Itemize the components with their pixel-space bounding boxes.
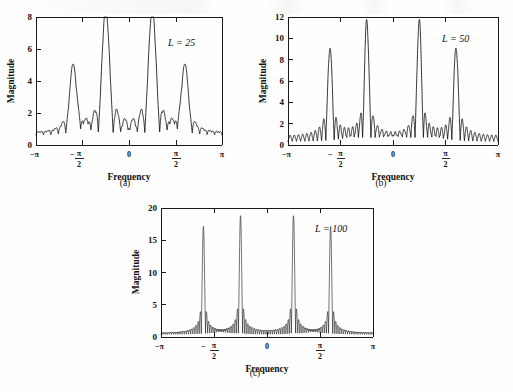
panel-c-xtick-pi: π bbox=[371, 342, 376, 351]
panel-b: 0 2 4 6 8 10 12 −π − π bbox=[252, 8, 510, 193]
svg-text:π: π bbox=[443, 149, 448, 158]
panel-a-ytick-0: 0 bbox=[28, 140, 33, 150]
panel-b-xtick-pi: π bbox=[496, 150, 501, 159]
svg-text:−: − bbox=[70, 150, 75, 159]
panel-c-caption: (c) bbox=[125, 368, 385, 378]
panel-c-xtick-neg-pi: −π bbox=[155, 342, 165, 351]
svg-text:2: 2 bbox=[174, 160, 178, 169]
svg-text:2: 2 bbox=[318, 352, 322, 361]
svg-text:π: π bbox=[338, 149, 343, 158]
svg-text:2: 2 bbox=[444, 160, 448, 169]
panel-b-ytick-6: 6 bbox=[280, 76, 285, 86]
figure-page: 0 2 4 6 8 −π − π bbox=[0, 0, 513, 392]
svg-text:L = 50: L = 50 bbox=[441, 33, 469, 44]
panel-b-annot-var: L = 50 bbox=[441, 33, 469, 44]
panel-a-xtick-pi-over-2: π 2 bbox=[172, 149, 181, 169]
svg-text:L = 25: L = 25 bbox=[167, 37, 195, 48]
panel-a-x-ticks bbox=[82, 17, 176, 145]
panel-c-xtick-neg-pi-over-2: − π 2 bbox=[201, 341, 219, 361]
panel-c-ytick-5: 5 bbox=[153, 300, 158, 310]
panel-a-y-ticks: 0 2 4 6 8 bbox=[28, 12, 42, 150]
svg-text:π: π bbox=[318, 341, 323, 350]
panel-c-xtick-zero: 0 bbox=[265, 342, 269, 351]
panel-c-y-ticks: 0 5 10 15 20 bbox=[148, 203, 166, 342]
panel-a-annotation: L = 25 bbox=[167, 37, 195, 48]
panel-b-xtick-zero: 0 bbox=[391, 150, 395, 159]
svg-text:π: π bbox=[212, 341, 217, 350]
panel-a-xtick-zero: 0 bbox=[127, 150, 131, 159]
panel-a-ytick-2: 2 bbox=[28, 108, 33, 118]
panel-c-x-ticks bbox=[214, 208, 320, 337]
panel-a-plot: 0 2 4 6 8 −π − π bbox=[0, 8, 250, 193]
panel-a-ytick-8: 8 bbox=[28, 12, 33, 22]
panel-c-ylabel: Magnitude bbox=[131, 250, 141, 294]
panel-a-xtick-pi: π bbox=[220, 150, 225, 159]
panel-b-ytick-8: 8 bbox=[280, 55, 285, 65]
panel-a-xtick-neg-pi-over-2: − π 2 bbox=[70, 149, 84, 169]
svg-text:−: − bbox=[328, 150, 333, 159]
svg-text:π: π bbox=[174, 149, 179, 158]
panel-b-annotation: L = 50 bbox=[441, 33, 469, 44]
panel-c-ytick-0: 0 bbox=[153, 332, 158, 342]
svg-text:−: − bbox=[201, 342, 206, 351]
panel-a-caption: (a) bbox=[0, 178, 250, 188]
panel-b-ytick-0: 0 bbox=[280, 140, 285, 150]
panel-c-ytick-15: 15 bbox=[148, 235, 158, 245]
panel-c: 0 5 10 15 20 −π − π 2 bbox=[125, 198, 385, 388]
panel-a-ytick-6: 6 bbox=[28, 44, 33, 54]
panel-a-ytick-4: 4 bbox=[28, 76, 33, 86]
panel-c-ytick-20: 20 bbox=[148, 203, 158, 213]
panel-b-caption: (b) bbox=[252, 178, 510, 188]
panel-b-ytick-10: 10 bbox=[275, 33, 285, 43]
panel-b-ytick-4: 4 bbox=[280, 97, 285, 107]
panel-a-ylabel: Magnitude bbox=[6, 59, 16, 103]
svg-text:2: 2 bbox=[212, 352, 216, 361]
svg-text:π: π bbox=[77, 149, 82, 158]
svg-text:2: 2 bbox=[77, 160, 81, 169]
panel-b-ytick-12: 12 bbox=[275, 12, 285, 22]
panel-a: 0 2 4 6 8 −π − π bbox=[0, 8, 250, 193]
panel-c-plot: 0 5 10 15 20 −π − π 2 bbox=[125, 198, 385, 388]
panel-a-x-ticklabels: −π − π 2 0 π 2 π bbox=[30, 149, 225, 169]
panel-c-ytick-10: 10 bbox=[148, 268, 158, 278]
panel-c-xtick-pi-over-2: π 2 bbox=[316, 341, 325, 361]
panel-a-annot-var: L = 25 bbox=[167, 37, 195, 48]
svg-text:2: 2 bbox=[339, 160, 343, 169]
panel-a-xtick-neg-pi: −π bbox=[30, 150, 40, 159]
panel-b-ytick-2: 2 bbox=[280, 119, 285, 129]
panel-b-xtick-neg-pi: −π bbox=[282, 150, 292, 159]
panel-b-ylabel: Magnitude bbox=[258, 59, 268, 103]
panel-b-y-ticks: 0 2 4 6 8 10 12 bbox=[275, 12, 293, 150]
panel-b-xtick-neg-pi-over-2: − π 2 bbox=[328, 149, 345, 169]
panel-a-curve bbox=[36, 17, 222, 135]
panel-b-plot: 0 2 4 6 8 10 12 −π − π bbox=[252, 8, 510, 193]
panel-b-xtick-pi-over-2: π 2 bbox=[442, 149, 451, 169]
panel-c-x-ticklabels: −π − π 2 0 π 2 π bbox=[155, 341, 376, 361]
panel-b-x-ticklabels: −π − π 2 0 π 2 π bbox=[282, 149, 501, 169]
